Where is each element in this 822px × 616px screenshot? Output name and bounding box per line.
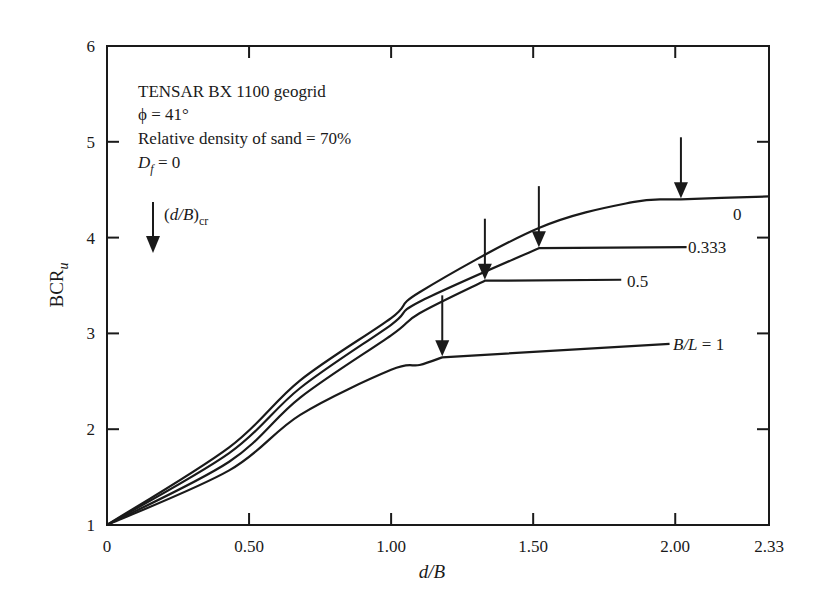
series-label-05: 0.5 [627,272,648,291]
plot-frame [107,46,769,525]
x-axis-label: d/B [419,561,446,582]
legend: (d/B)cr [146,202,208,253]
y-tick-label: 3 [87,324,96,343]
series-labels: 0 0.333 0.5 B/L = 1 [627,205,742,354]
series-label-0333: 0.333 [688,238,726,257]
legend-label: (d/B)cr [164,205,208,228]
annotation-line-2: ϕ = 41° [138,105,189,124]
svg-text:BCRu: BCRu [46,262,71,307]
series-label-1: B/L = 1 [673,335,724,354]
down-arrow-icon [674,137,688,198]
annotation-block: TENSAR BX 1100 geogrid ϕ = 41° Relative … [137,82,351,176]
series-line [107,280,621,525]
bcr-chart: 00.501.001.502.002.33123456 d/B BCRu TEN… [0,0,822,616]
x-tick-label: 2.00 [660,537,690,556]
axis-ticks [107,46,769,525]
down-arrow-icon [532,186,546,247]
series-line [107,344,670,525]
x-tick-label: 1.50 [518,537,548,556]
down-arrow-icon [146,202,160,253]
annotation-line-3: Relative density of sand = 70% [138,129,351,148]
y-tick-label: 4 [87,229,96,248]
y-tick-label: 5 [87,133,96,152]
series-curves [107,196,769,525]
y-axis-label: BCRu [46,262,71,307]
series-line [107,247,687,525]
x-tick-label: 2.33 [754,537,784,556]
x-tick-label: 0 [103,537,112,556]
annotation-line-4: Df = 0 [137,153,180,176]
x-tick-label: 1.00 [376,537,406,556]
series-label-0: 0 [733,205,742,224]
y-tick-label: 2 [87,420,96,439]
y-tick-label: 6 [87,37,96,56]
annotation-line-1: TENSAR BX 1100 geogrid [138,82,326,101]
y-tick-label: 1 [87,516,96,535]
x-tick-label: 0.50 [234,537,264,556]
